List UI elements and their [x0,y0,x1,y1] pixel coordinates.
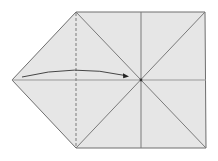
origami-diagram [0,0,218,161]
center-point [140,79,143,82]
diagram-canvas [0,0,218,161]
